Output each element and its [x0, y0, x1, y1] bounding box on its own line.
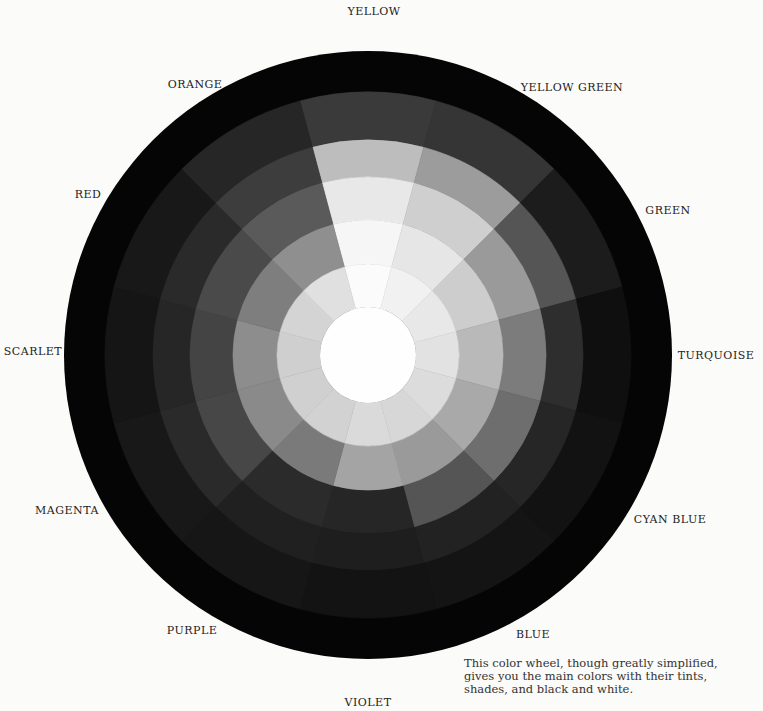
hue-label-scarlet: SCARLET: [4, 345, 62, 358]
caption-text: This color wheel, though greatly simplif…: [464, 657, 744, 696]
wheel-segment-violet-ring-0: [300, 563, 436, 618]
wheel-segment-yellow-ring-0: [300, 92, 436, 147]
center-white-disc: [320, 307, 416, 403]
hue-label-red: RED: [75, 188, 102, 201]
wheel-segment-yellow-ring-2: [322, 177, 414, 225]
color-wheel: [0, 0, 763, 711]
wheel-segment-scarlet-ring-3: [233, 320, 280, 390]
wheel-segment-yellow-ring-3: [333, 220, 403, 267]
wheel-segment-turquoise-ring-0: [576, 287, 631, 423]
wheel-segment-violet-ring-2: [322, 485, 414, 533]
wheel-segment-violet-ring-3: [333, 443, 403, 490]
wheel-segment-scarlet-ring-0: [105, 287, 160, 423]
wheel-segment-turquoise-ring-2: [498, 309, 546, 401]
hue-label-green: GREEN: [645, 204, 690, 217]
hue-label-yellow-green: YELLOW GREEN: [521, 81, 623, 94]
wheel-segment-scarlet-ring-2: [190, 309, 238, 401]
hue-label-orange: ORANGE: [168, 78, 223, 91]
hue-label-cyan-blue: CYAN BLUE: [634, 513, 706, 526]
hue-label-blue: BLUE: [516, 628, 550, 641]
hue-label-turquoise: TURQUOISE: [678, 349, 755, 362]
wheel-segment-turquoise-ring-3: [456, 320, 503, 390]
hue-label-yellow: YELLOW: [347, 5, 400, 18]
hue-label-magenta: MAGENTA: [35, 504, 99, 517]
hue-label-purple: PURPLE: [167, 624, 218, 637]
hue-label-violet: VIOLET: [345, 696, 392, 709]
